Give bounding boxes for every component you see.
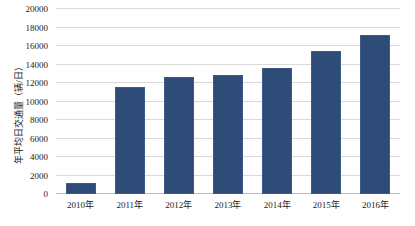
bar (66, 183, 96, 194)
y-axis-tick-label: 16000 (26, 42, 49, 51)
y-axis-tick-label: 8000 (30, 116, 48, 125)
x-axis-tick-label: 2012年 (154, 196, 203, 216)
x-axis-tick-label: 2013年 (203, 196, 252, 216)
x-axis-tick-label: 2016年 (351, 196, 400, 216)
plot-area (56, 9, 400, 194)
y-axis-tick-label: 2000 (30, 171, 48, 180)
bar-slot (203, 9, 252, 194)
bar-slot (253, 9, 302, 194)
y-axis-tick-label: 6000 (30, 134, 48, 143)
bar-slot (105, 9, 154, 194)
bar-slot (302, 9, 351, 194)
bar-slot (56, 9, 105, 194)
x-axis-tick-label: 2010年 (56, 196, 105, 216)
x-axis-tick-labels: 2010年2011年2012年2013年2014年2015年2016年 (56, 196, 400, 216)
y-axis-tick-labels: 0200040006000800010000120001400016000180… (0, 9, 52, 194)
y-axis-tick-label: 18000 (26, 23, 49, 32)
y-axis-tick-label: 4000 (30, 153, 48, 162)
bar-series (56, 9, 400, 194)
bar (213, 75, 243, 194)
bar-slot (351, 9, 400, 194)
bar (360, 35, 390, 194)
bar (115, 87, 145, 194)
bar (164, 77, 194, 194)
y-axis-tick-label: 14000 (26, 60, 49, 69)
x-axis-tick-label: 2015年 (302, 196, 351, 216)
y-axis-tick-label: 10000 (26, 97, 49, 106)
bar (311, 51, 341, 194)
bar-slot (154, 9, 203, 194)
x-axis-tick-label: 2011年 (105, 196, 154, 216)
bar-chart: 年平均日交通量（辆/日） 020004000600080001000012000… (0, 0, 415, 226)
y-axis-tick-label: 0 (44, 190, 49, 199)
bar (262, 68, 292, 194)
x-axis-tick-label: 2014年 (253, 196, 302, 216)
y-axis-tick-label: 20000 (26, 5, 49, 14)
y-axis-tick-label: 12000 (26, 79, 49, 88)
